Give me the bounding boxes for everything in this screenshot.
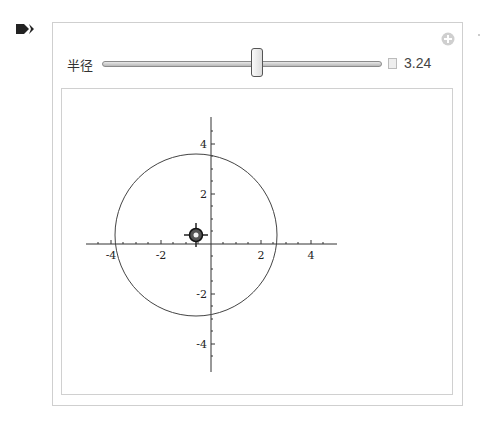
- dot-mark: [478, 34, 480, 36]
- plus-circle-icon[interactable]: [441, 32, 455, 46]
- slider-thumb[interactable]: [251, 48, 263, 77]
- slider-track[interactable]: [102, 61, 382, 67]
- radius-label: 半径: [67, 55, 93, 74]
- svg-text:-2: -2: [156, 249, 167, 262]
- x-tick-labels: -4 -2 2 4: [106, 249, 315, 262]
- svg-text:-4: -4: [196, 338, 207, 351]
- svg-text:4: 4: [308, 249, 315, 262]
- svg-text:-4: -4: [106, 249, 117, 262]
- plot-panel: -4 -2 2 4 4 2 -2 -4: [61, 88, 453, 395]
- svg-text:2: 2: [200, 188, 207, 201]
- svg-text:-2: -2: [196, 288, 207, 301]
- expand-control-icon[interactable]: [388, 58, 397, 69]
- svg-text:4: 4: [200, 138, 207, 151]
- svg-text:2: 2: [258, 249, 265, 262]
- plot[interactable]: -4 -2 2 4 4 2 -2 -4: [62, 89, 454, 396]
- radius-slider[interactable]: [102, 59, 383, 69]
- locator-icon[interactable]: [184, 223, 208, 247]
- cell-bracket-icon[interactable]: [16, 22, 38, 36]
- radius-value: 3.24: [404, 55, 431, 71]
